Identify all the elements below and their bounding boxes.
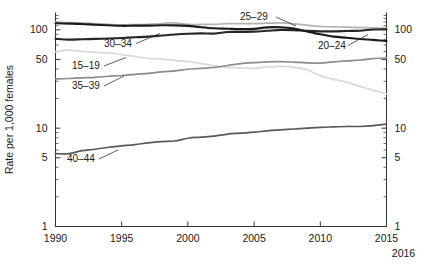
series-annotation-label: 40–44 [67,153,95,164]
annotation-leader-line [99,150,118,159]
x-tick-label: 1990 [44,232,68,244]
annotation-leader-line [104,76,124,86]
x-tick-label: 2015 [375,232,399,244]
series-line-15-19 [56,50,387,94]
series-line-35-39 [56,58,387,79]
series-annotation-label: 35–39 [72,80,100,91]
x-tick-label: 1995 [110,232,134,244]
y-tick-label-right: 100 [395,23,413,35]
line-chart: 1155101050501001001990199520002005201020… [0,0,432,266]
y-tick-label-right: 5 [395,151,401,163]
y-tick-label-right: 1 [395,220,401,232]
series-annotation-40-44: 40–44 [67,150,118,164]
series-line-40-44 [56,124,387,154]
chart-canvas: 1155101050501001001990199520002005201020… [0,0,432,266]
y-tick-label: 1 [42,220,48,232]
series-annotation-label: 30–34 [104,38,132,49]
series-annotation-15-19: 15–19 [72,58,126,72]
x-tick-label: 2010 [309,232,333,244]
series-annotation-label: 25–29 [240,11,268,22]
annotation-leader-line [104,58,126,67]
x-tick-label: 2005 [242,232,266,244]
x-tick-label: 2000 [176,232,200,244]
x-extra-year-label: 2016 [392,247,416,259]
series-annotation-label: 20–24 [318,40,346,51]
y-tick-label: 100 [30,23,48,35]
y-tick-label: 50 [36,53,48,65]
annotation-leader-line [136,34,160,44]
series-annotation-label: 15–19 [72,60,100,71]
y-tick-label-right: 50 [395,53,407,65]
annotation-leader-line [276,17,296,26]
y-tick-label: 10 [36,122,48,134]
y-axis-title: Rate per 1,000 females [3,65,15,174]
y-tick-label-right: 10 [395,122,407,134]
chart-container: 1155101050501001001990199520002005201020… [0,0,432,266]
y-tick-label: 5 [42,151,48,163]
